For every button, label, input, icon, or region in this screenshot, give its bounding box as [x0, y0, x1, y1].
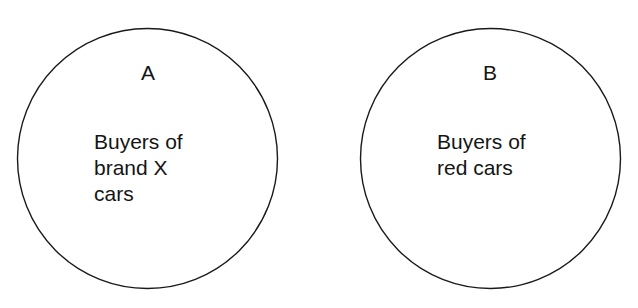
- set-caption-a: Buyers of brand X cars: [94, 129, 183, 207]
- euler-diagram: A Buyers of brand X cars B Buyers of red…: [0, 0, 638, 308]
- set-label-a: A: [118, 62, 178, 83]
- set-label-b: B: [460, 62, 520, 83]
- set-caption-b: Buyers of red cars: [437, 129, 526, 181]
